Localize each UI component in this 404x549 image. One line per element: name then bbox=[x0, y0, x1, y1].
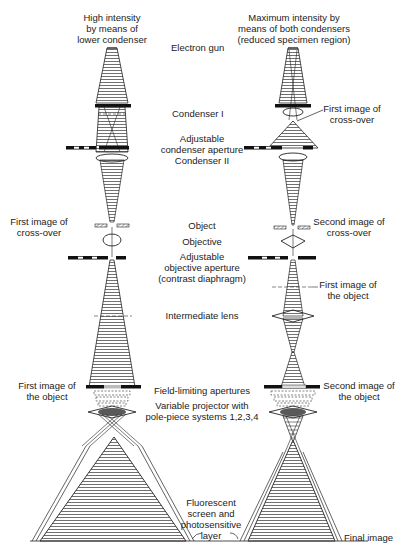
left-column-rays bbox=[32, 48, 194, 541]
label-line: Fluorescent bbox=[176, 497, 246, 508]
label-left-first-object-image: First image of the object bbox=[14, 380, 80, 402]
label-line: (contrast diaphragm) bbox=[150, 273, 254, 284]
label-fluorescent-screen: Fluorescent screen and photosensitive la… bbox=[176, 497, 246, 541]
left-heading-line-2: by means of bbox=[72, 23, 152, 34]
label-line: objective aperture bbox=[150, 262, 254, 273]
left-heading: High intensity by means of lower condens… bbox=[72, 12, 152, 45]
right-heading-line-1: Maximum intensity by bbox=[230, 12, 358, 23]
label-line: Adjustable bbox=[150, 251, 254, 262]
label-condenser-1: Condenser I bbox=[172, 108, 224, 119]
label-variable-projector: Variable projector with pole-piece syste… bbox=[140, 400, 264, 422]
label-right-second-object-image: Second image of the object bbox=[322, 380, 396, 402]
label-line: First image of bbox=[14, 380, 80, 391]
label-line: photosensitive bbox=[176, 519, 246, 530]
label-condenser-aperture: Adjustable condenser aperture Condenser … bbox=[148, 133, 256, 166]
label-final-image: Final image bbox=[344, 532, 393, 543]
label-line: cross-over bbox=[318, 114, 386, 125]
left-heading-line-3: lower condenser bbox=[72, 34, 152, 45]
right-heading-line-2: means of both condensers bbox=[230, 23, 358, 34]
left-heading-line-1: High intensity bbox=[72, 12, 152, 23]
label-intermediate-lens: Intermediate lens bbox=[150, 310, 254, 321]
label-line: Variable projector with bbox=[140, 400, 264, 411]
label-line: First image of bbox=[6, 216, 72, 227]
label-line: condenser aperture bbox=[148, 144, 256, 155]
label-line: Second image of bbox=[312, 216, 386, 227]
label-objective: Objective bbox=[170, 236, 234, 247]
label-line: Second image of bbox=[322, 380, 396, 391]
label-electron-gun: Electron gun bbox=[171, 42, 224, 53]
label-objective-aperture: Adjustable objective aperture (contrast … bbox=[150, 251, 254, 284]
label-line: First image of bbox=[314, 279, 382, 290]
label-right-first-object-image: First image of the object bbox=[314, 279, 382, 301]
label-left-first-crossover: First image of cross-over bbox=[6, 216, 72, 238]
label-object: Object bbox=[170, 220, 234, 231]
label-line: cross-over bbox=[6, 227, 72, 238]
label-line: the object bbox=[314, 290, 382, 301]
label-line: First image of bbox=[318, 103, 386, 114]
label-line: cross-over bbox=[312, 227, 386, 238]
label-line: screen and bbox=[176, 508, 246, 519]
right-heading: Maximum intensity by means of both conde… bbox=[230, 12, 358, 45]
label-line: Condenser II bbox=[148, 155, 256, 166]
label-line: the object bbox=[322, 391, 396, 402]
label-right-first-crossover: First image of cross-over bbox=[318, 103, 386, 125]
label-right-second-crossover: Second image of cross-over bbox=[312, 216, 386, 238]
label-field-limiting-apertures: Field-limiting apertures bbox=[146, 385, 258, 396]
label-line: pole-piece systems 1,2,3,4 bbox=[140, 411, 264, 422]
label-line: the object bbox=[14, 391, 80, 402]
label-line: Adjustable bbox=[148, 133, 256, 144]
label-line: layer bbox=[176, 530, 246, 541]
right-heading-line-3: (reduced specimen region) bbox=[230, 34, 358, 45]
